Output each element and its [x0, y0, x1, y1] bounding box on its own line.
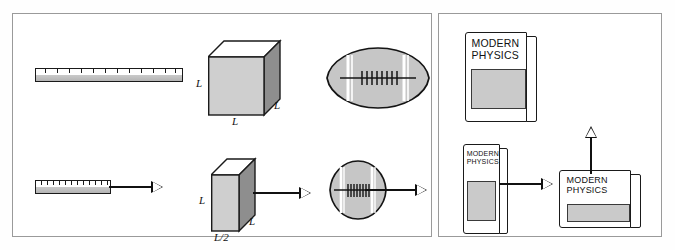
football-velocity-arrow — [365, 183, 427, 197]
book-cover-picture — [467, 181, 496, 221]
book-title-line-1: MODERN — [467, 150, 513, 158]
book-cover-picture — [567, 204, 631, 222]
book-title: MODERN PHYSICS — [471, 38, 531, 62]
football-shape — [326, 47, 430, 109]
length-contraction-figure: L L L — [0, 0, 675, 250]
book-horizontal-velocity-arrow — [499, 177, 553, 191]
rest-frame-and-moving-frame-panel: L L L — [12, 13, 432, 237]
book-title-line-2: PHYSICS — [567, 185, 638, 195]
cube-at-rest: L L L — [208, 39, 286, 117]
book-moving-vertical-contracted: MODERN PHYSICS — [559, 170, 643, 230]
cube-depth-label: L — [274, 99, 280, 111]
book-title-line-1: MODERN — [567, 175, 638, 185]
cube-width-label: L — [232, 115, 238, 127]
football-at-rest — [326, 47, 430, 109]
book-at-rest: MODERN PHYSICS — [465, 32, 537, 124]
book-title-line-2: PHYSICS — [467, 158, 513, 166]
box-velocity-arrow — [253, 186, 311, 200]
book-vertical-velocity-arrow — [583, 126, 599, 174]
book-cover-picture — [471, 69, 526, 109]
book-orientation-panel: MODERN PHYSICS MODERN PHYSICS MODER — [438, 13, 662, 237]
ruler-tick-marks-contracted — [36, 181, 110, 187]
contracted-box-height-label: L — [199, 194, 205, 206]
book-title-line-2: PHYSICS — [471, 50, 531, 62]
cube-height-label: L — [196, 77, 202, 89]
book-title: MODERN PHYSICS — [467, 150, 513, 166]
ruler-tick-marks — [36, 69, 182, 75]
book-title: MODERN PHYSICS — [567, 175, 638, 195]
contracted-box-depth-label: L — [249, 215, 255, 227]
contracted-box-width-label: L/2 — [214, 231, 229, 243]
ruler-at-rest — [35, 68, 183, 82]
ruler-moving-contracted — [35, 180, 111, 194]
ruler-velocity-arrow — [109, 180, 163, 194]
